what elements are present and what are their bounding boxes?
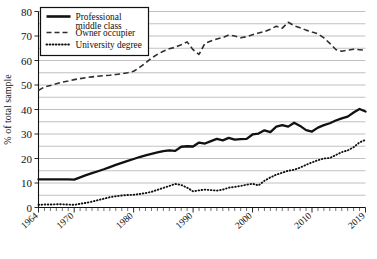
x-tick-label: 2019 [346, 210, 367, 230]
x-tick-label: 2010 [293, 210, 314, 230]
y-tick-label: 40 [21, 104, 33, 116]
legend-item-label: University degree [76, 40, 142, 50]
chart-legend: Professionalmiddle classOwner occupierUn… [41, 8, 149, 56]
y-axis-title: % of total sample [2, 74, 13, 145]
x-tick-label: 1990 [174, 210, 195, 230]
series-line-professional-middle-class [39, 109, 366, 180]
y-tick-label: 20 [21, 153, 33, 165]
y-axis-title-text: % of total sample [2, 74, 13, 145]
x-tick-label: 1970 [55, 210, 76, 230]
line-chart: 01020304050607080 1964197019801990200020… [0, 0, 377, 259]
y-tick-label: 50 [21, 79, 33, 91]
y-axis-tick-labels: 01020304050607080 [21, 6, 33, 214]
y-tick-label: 80 [21, 6, 33, 18]
y-tick-label: 10 [21, 177, 33, 189]
y-tick-label: 30 [21, 128, 33, 140]
legend-item-label: Owner occupier [76, 28, 137, 38]
x-axis-tick-labels: 1964197019801990200020102019 [19, 210, 367, 230]
chart-container: 01020304050607080 1964197019801990200020… [0, 0, 377, 259]
y-tick-label: 60 [21, 55, 33, 67]
x-tick-label: 1964 [19, 210, 40, 230]
y-tick-label: 70 [21, 30, 33, 42]
x-tick-label: 2000 [233, 210, 254, 230]
x-tick-label: 1980 [114, 210, 135, 230]
